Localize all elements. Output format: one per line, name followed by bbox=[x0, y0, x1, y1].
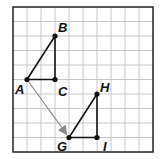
point-b bbox=[52, 33, 57, 38]
label-b: B bbox=[58, 20, 67, 35]
point-g bbox=[66, 135, 71, 140]
point-a bbox=[24, 77, 29, 82]
label-h: H bbox=[100, 80, 110, 95]
label-i: I bbox=[103, 139, 107, 154]
point-h bbox=[94, 91, 99, 96]
label-a: A bbox=[14, 82, 24, 97]
point-i bbox=[94, 135, 99, 140]
translation-diagram: ABCGHI bbox=[0, 0, 165, 159]
label-c: C bbox=[58, 84, 68, 99]
point-c bbox=[52, 77, 57, 82]
label-g: G bbox=[57, 139, 67, 154]
